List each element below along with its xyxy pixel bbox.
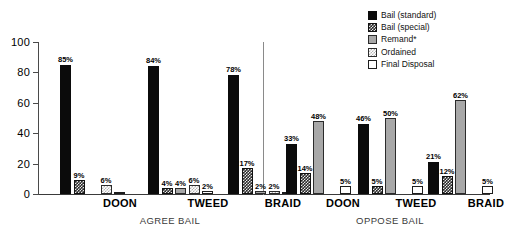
bar-bail-special: 14% xyxy=(300,173,311,194)
y-axis-tick xyxy=(33,194,39,195)
legend-swatch-icon xyxy=(368,11,377,20)
bar-ordained: 6% xyxy=(101,185,112,194)
bar-value-label: 2% xyxy=(269,183,280,191)
legend-swatch-icon xyxy=(368,35,377,44)
legend-item: Bail (special) xyxy=(368,21,436,33)
bar-final-disposal: 5% xyxy=(340,186,351,194)
bar-final-disposal: 5% xyxy=(482,186,493,194)
y-axis-tick-label: 100 xyxy=(0,37,30,48)
bar-value-label: 50% xyxy=(383,110,398,118)
x-axis-category-label: TWEED xyxy=(376,197,456,209)
legend-item-label: Bail (special) xyxy=(381,23,430,32)
bar-value-label: 48% xyxy=(311,113,326,121)
legend-item: Bail (standard) xyxy=(368,9,436,21)
bar-value-label: 6% xyxy=(101,177,112,185)
bar-value-label: 2% xyxy=(202,183,213,191)
bar-value-label: 5% xyxy=(372,178,383,186)
bar-bail-standard: 84% xyxy=(148,66,159,194)
bar-value-label: 4% xyxy=(162,180,173,188)
bar-bail-special: 9% xyxy=(74,180,85,194)
legend-item-label: Ordained xyxy=(381,48,416,57)
section-label: AGREE BAIL xyxy=(110,216,230,226)
bar-remand: 50% xyxy=(385,118,396,194)
x-axis-category-label: DOON xyxy=(80,197,160,209)
legend-swatch-icon xyxy=(368,60,377,69)
bar-final-disposal: 2% xyxy=(202,191,213,194)
bar-value-label: 21% xyxy=(426,153,441,161)
bar-value-label: 33% xyxy=(284,135,299,143)
bar-bail-standard: 85% xyxy=(60,65,71,194)
bar-final-disposal: 5% xyxy=(412,186,423,194)
bar-value-label: 5% xyxy=(482,178,493,186)
legend-item: Ordained xyxy=(368,46,436,58)
bar-value-label: 5% xyxy=(340,178,351,186)
bar-bail-standard: 33% xyxy=(286,144,297,194)
bar-bail-standard: 78% xyxy=(228,75,239,194)
y-axis-tick-label: 20 xyxy=(0,159,30,170)
bar-value-label: 14% xyxy=(297,165,312,173)
y-axis-tick-label: 0 xyxy=(0,189,30,200)
bar-remand: 48% xyxy=(313,121,324,194)
legend-item-label: Final Disposal xyxy=(381,60,434,69)
bar-final-disposal xyxy=(114,192,125,194)
bar-value-label: 2% xyxy=(255,183,266,191)
x-axis-category-label: TWEED xyxy=(168,197,248,209)
bar-value-label: 46% xyxy=(356,115,371,123)
x-axis-category-label: BRAID xyxy=(446,197,509,209)
y-axis-tick-label: 80 xyxy=(0,67,30,78)
bar-value-label: 6% xyxy=(189,177,200,185)
bar-bail-special: 12% xyxy=(442,176,453,194)
bar-value-label: 85% xyxy=(58,56,73,64)
bar-remand: 62% xyxy=(455,100,466,194)
bar-ordained: 6% xyxy=(189,185,200,194)
bar-value-label: 5% xyxy=(412,178,423,186)
bar-bail-standard: 21% xyxy=(428,162,439,194)
bar-bail-special: 17% xyxy=(242,168,253,194)
x-axis-category-label: DOON xyxy=(303,197,383,209)
bar-bail-special: 4% xyxy=(162,188,173,194)
legend-swatch-icon xyxy=(368,48,377,57)
y-axis-tick-label: 60 xyxy=(0,98,30,109)
bar-bail-standard: 46% xyxy=(358,124,369,194)
legend-item: Remand* xyxy=(368,34,436,46)
legend-item-label: Bail (standard) xyxy=(381,11,436,20)
bar-value-label: 17% xyxy=(239,160,254,168)
chart-legend: Bail (standard)Bail (special)Remand*Orda… xyxy=(368,9,436,71)
legend-item-label: Remand* xyxy=(381,35,416,44)
bar-value-label: 12% xyxy=(439,168,454,176)
bar-remand: 4% xyxy=(175,188,186,194)
legend-item: Final Disposal xyxy=(368,59,436,71)
section-label: OPPOSE BAIL xyxy=(330,216,450,226)
bar-remand: 2% xyxy=(255,191,266,194)
bar-ordained: 2% xyxy=(269,191,280,194)
bar-value-label: 62% xyxy=(453,92,468,100)
y-axis-tick-label: 40 xyxy=(0,128,30,139)
bar-value-label: 84% xyxy=(146,57,161,65)
x-axis-line xyxy=(38,194,490,195)
bar-value-label: 9% xyxy=(74,172,85,180)
legend-swatch-icon xyxy=(368,23,377,32)
bar-value-label: 78% xyxy=(226,66,241,74)
bar-value-label: 4% xyxy=(175,180,186,188)
bar-bail-special: 5% xyxy=(372,186,383,194)
